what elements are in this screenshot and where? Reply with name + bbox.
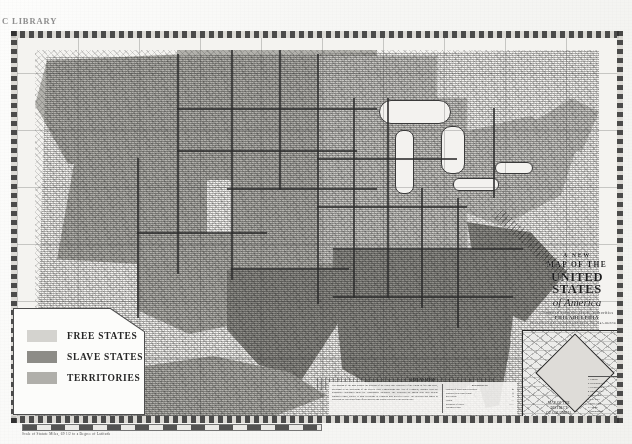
legend-item-slave-states: SLAVE STATES [27, 351, 145, 363]
cartouche-line-publisher: PUBLISHED BY CHARLES DESILVER, No. 714 C… [525, 322, 617, 325]
scale-bar-label: Scale of Statute Miles, 69 1/2 to a Degr… [22, 432, 111, 436]
notes-references: REFERENCES Capitals of States and Territ… [442, 384, 514, 413]
legend-swatch-slave-states [27, 351, 57, 363]
reference-row: National Roads··· [446, 406, 514, 410]
cartouche-line-united-states: UNITED STATES [525, 271, 617, 296]
legend-label-free-states: FREE STATES [67, 331, 137, 341]
scale-bar [22, 424, 322, 431]
cartouche-line-of-america: of America [525, 297, 617, 308]
legend-item-territories: TERRITORIES [27, 372, 145, 384]
legend-swatch-free-states [27, 330, 57, 342]
title-cartouche: A NEW MAP OF THE UNITED STATES of Americ… [525, 250, 617, 312]
inset-title: MAP OF THE DISTRICT OF COLUMBIA [533, 401, 585, 416]
notes-references-title: REFERENCES [446, 384, 514, 388]
legend-label-territories: TERRITORIES [67, 373, 141, 383]
notes-body-text: The shading of the map denotes the divis… [332, 384, 438, 413]
notes-heading: EXPLANATION [329, 378, 517, 382]
library-stamp: C LIBRARY [2, 16, 57, 26]
cartouche-line-philadelphia: PHILADELPHIA [525, 316, 617, 321]
district-of-columbia-inset-map: MAP OF THE DISTRICT OF COLUMBIA 1 Capito… [522, 330, 617, 416]
cartouche-line-a-new: A NEW [525, 252, 617, 258]
legend-item-free-states: FREE STATES [27, 330, 145, 342]
inset-references: 1 Capitol 2 Presidents Ho. 3 Treasury De… [588, 376, 617, 416]
cartouche-line-authorities: Compiled from the latest Authorities [525, 311, 617, 315]
neatline-bottom [11, 416, 623, 423]
neatline-top [11, 31, 623, 38]
map-page: C LIBRARY [0, 0, 632, 444]
explanation-notes-block: EXPLANATION The shading of the map denot… [329, 382, 517, 415]
neatline-right [617, 31, 623, 423]
cartouche-line-map-of-the: MAP OF THE [525, 261, 617, 269]
legend: FREE STATES SLAVE STATES TERRITORIES [13, 308, 145, 415]
legend-swatch-territories [27, 372, 57, 384]
legend-label-slave-states: SLAVE STATES [67, 352, 143, 362]
